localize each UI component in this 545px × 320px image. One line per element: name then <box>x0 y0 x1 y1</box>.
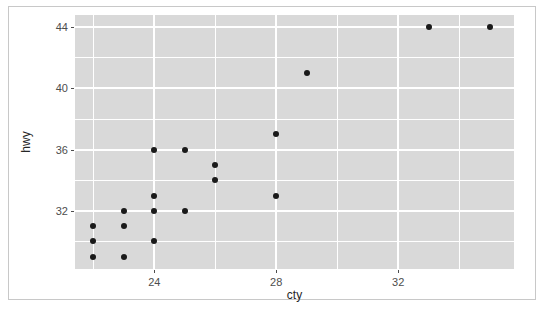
y-axis-title-text: hwy <box>19 131 33 152</box>
data-point <box>182 147 188 153</box>
gridline-major-vertical <box>397 15 399 269</box>
gridline-minor-vertical <box>337 15 338 269</box>
y-tick-mark <box>71 211 74 212</box>
y-tick-label: 32 <box>56 206 68 217</box>
data-point <box>304 70 310 76</box>
data-point <box>90 223 96 229</box>
y-tick-mark <box>71 27 74 28</box>
data-point <box>121 223 127 229</box>
x-axis-title: cty <box>75 288 514 302</box>
gridline-minor-horizontal <box>75 241 514 242</box>
y-tick-label: 44 <box>56 22 68 33</box>
data-point <box>151 208 157 214</box>
data-point <box>151 147 157 153</box>
gridline-major-horizontal <box>75 87 514 89</box>
data-point <box>487 24 493 30</box>
figure-card: 44403632 242832 hwy cty <box>8 6 536 300</box>
x-tick-label: 32 <box>392 277 404 288</box>
x-tick-mark <box>276 270 277 273</box>
gridline-minor-vertical <box>459 15 460 269</box>
x-tick-mark <box>398 270 399 273</box>
plot-panel <box>75 15 514 269</box>
x-tick-mark <box>154 270 155 273</box>
x-tick-label: 28 <box>270 277 282 288</box>
y-axis-title: hwy <box>19 15 33 269</box>
data-point <box>273 131 279 137</box>
data-point <box>90 238 96 244</box>
data-point <box>426 24 432 30</box>
gridline-minor-horizontal <box>75 180 514 181</box>
cut-off-caption <box>8 312 208 320</box>
data-point <box>151 193 157 199</box>
data-point <box>90 254 96 260</box>
gridline-minor-horizontal <box>75 119 514 120</box>
data-point <box>212 177 218 183</box>
x-tick-label: 24 <box>148 277 160 288</box>
data-point <box>121 254 127 260</box>
scatter-plot: 44403632 242832 hwy cty <box>9 7 537 301</box>
gridline-major-horizontal <box>75 149 514 151</box>
y-tick-mark <box>71 88 74 89</box>
gridline-major-vertical <box>153 15 155 269</box>
gridline-minor-horizontal <box>75 57 514 58</box>
gridline-major-vertical <box>275 15 277 269</box>
data-point <box>182 208 188 214</box>
data-point <box>273 193 279 199</box>
y-tick-label: 36 <box>56 145 68 156</box>
gridline-minor-vertical <box>93 15 94 269</box>
gridline-major-horizontal <box>75 210 514 212</box>
y-tick-label: 40 <box>56 83 68 94</box>
data-point <box>212 162 218 168</box>
data-point <box>121 208 127 214</box>
gridline-major-horizontal <box>75 26 514 28</box>
gridline-minor-vertical <box>215 15 216 269</box>
y-tick-mark <box>71 150 74 151</box>
data-point <box>151 238 157 244</box>
